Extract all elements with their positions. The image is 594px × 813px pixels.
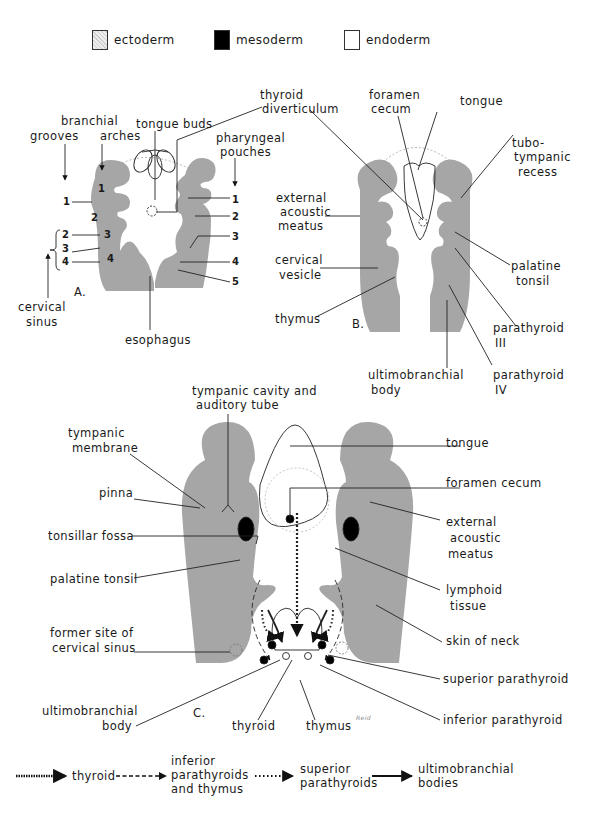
label-tympanic: tympanic	[514, 150, 571, 164]
label-tissue: tissue	[450, 599, 486, 613]
pouch-number: 3	[232, 231, 239, 242]
pouch-number: 2	[232, 211, 239, 222]
label-external-b: external	[276, 191, 327, 205]
pouch-number: 5	[232, 276, 239, 287]
groove-number: 1	[63, 196, 70, 207]
arch-number: 3	[104, 229, 111, 240]
panel-b-drawing	[310, 110, 516, 368]
label-vesicle-b: vesicle	[279, 268, 321, 282]
legend-inferior-3: and thymus	[171, 782, 243, 796]
label-cervical-sinus-c: cervical sinus	[52, 641, 136, 655]
legend-ultimobranchial-1: ultimobranchial	[418, 762, 514, 776]
label-body-b: body	[371, 383, 401, 397]
arch-number: 4	[107, 253, 114, 264]
legend-superior-2: parathyroids	[300, 776, 378, 790]
label-parathyroid-iii: parathyroid	[493, 321, 564, 335]
label-palatine-tonsil-c: palatine tonsil	[50, 572, 138, 586]
panel-b-letter: B.	[352, 317, 364, 331]
arch-number: 1	[98, 183, 105, 194]
legend-inferior-2: parathyroids	[171, 768, 249, 782]
pouch-number: 4	[232, 256, 239, 267]
label-cervical: cervical	[18, 300, 66, 314]
artist-signature: Reid	[356, 711, 371, 725]
label-esophagus: esophagus	[125, 333, 191, 347]
label-tubo: tubo-	[512, 136, 545, 150]
label-tympanic-c: tympanic	[68, 426, 125, 440]
label-tonsil-b: tonsil	[516, 274, 550, 288]
label-tongue-c: tongue	[446, 436, 489, 450]
label-cecum: cecum	[371, 102, 411, 116]
label-thyroid-c: thyroid	[232, 719, 275, 733]
label-thyroid-diverticulum-1: thyroid	[260, 88, 303, 102]
label-former-site: former site of	[50, 626, 133, 640]
migration-legend: thyroid inferior parathyroids and thymus…	[0, 752, 594, 802]
label-foramen-cecum-c: foramen cecum	[446, 476, 542, 490]
label-body-c: body	[102, 719, 132, 733]
panel-c-drawing	[130, 414, 460, 726]
label-ultimobranchial-c: ultimobranchial	[42, 704, 138, 718]
label-thymus-b: thymus	[275, 312, 321, 326]
pouch-number: 1	[232, 194, 239, 205]
label-tongue-buds: tongue buds	[136, 117, 212, 131]
label-arches: arches	[100, 129, 141, 143]
label-iii: III	[495, 336, 506, 350]
label-thyroid-diverticulum-2: diverticulum	[262, 102, 339, 116]
panel-c-letter: C.	[193, 706, 206, 720]
label-cervical-b: cervical	[275, 253, 323, 267]
label-acoustic-c: acoustic	[450, 531, 501, 545]
label-tongue-b: tongue	[460, 94, 503, 108]
legend-ultimobranchial-2: bodies	[418, 776, 458, 790]
label-external-c: external	[446, 515, 497, 529]
label-branchial: branchial	[61, 114, 118, 128]
label-membrane: membrane	[72, 441, 138, 455]
label-superior-parathyroid: superior parathyroid	[443, 672, 569, 686]
label-auditory-tube: auditory tube	[196, 398, 279, 412]
groove-number: 2	[62, 229, 69, 240]
arch-number: 2	[91, 212, 98, 223]
label-recess: recess	[518, 165, 557, 179]
label-pouches: pouches	[220, 145, 271, 159]
label-skin-of-neck: skin of neck	[446, 634, 520, 648]
label-sinus: sinus	[26, 315, 58, 329]
label-inferior-parathyroid: inferior parathyroid	[443, 713, 563, 727]
legend-superior-1: superior	[300, 762, 351, 776]
label-pharyngeal: pharyngeal	[216, 131, 285, 145]
label-foramen: foramen	[369, 88, 420, 102]
legend-thyroid: thyroid	[72, 769, 115, 783]
label-iv: IV	[495, 383, 507, 397]
groove-number: 4	[62, 256, 69, 267]
label-tonsillar-fossa: tonsillar fossa	[48, 529, 134, 543]
label-palatine-b: palatine	[511, 259, 561, 273]
label-parathyroid-iv: parathyroid	[493, 368, 564, 382]
panel-a-letter: A.	[74, 285, 86, 299]
label-lymphoid: lymphoid	[446, 583, 503, 597]
groove-number: 3	[62, 243, 69, 254]
label-meatus-b: meatus	[278, 219, 324, 233]
legend-inferior-1: inferior	[171, 754, 216, 768]
label-thymus-c: thymus	[306, 719, 352, 733]
label-tympanic-cavity: tympanic cavity and	[192, 384, 317, 398]
label-acoustic-b: acoustic	[280, 205, 331, 219]
label-meatus-c: meatus	[448, 547, 494, 561]
label-grooves: grooves	[30, 129, 79, 143]
label-pinna: pinna	[99, 486, 133, 500]
label-ultimobranchial-b: ultimobranchial	[368, 368, 464, 382]
